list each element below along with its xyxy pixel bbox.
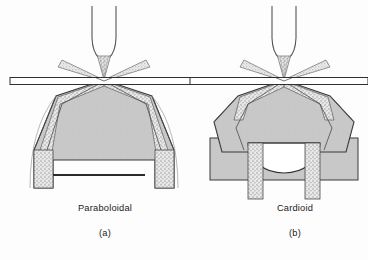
figure-dark-field-condensers <box>0 0 368 260</box>
condenser-leg-right <box>155 150 174 188</box>
panel-a-name-label: Paraboloidal <box>40 203 170 213</box>
panel-b-name-label: Cardioid <box>230 203 360 213</box>
condenser-leg-right <box>305 143 320 199</box>
glass-slide-icon <box>190 78 368 85</box>
panel-b-index-label: (b) <box>230 228 360 238</box>
panel-a-index-label: (a) <box>40 228 170 238</box>
condenser-leg-left <box>248 143 263 199</box>
condenser-leg-left <box>34 150 53 188</box>
